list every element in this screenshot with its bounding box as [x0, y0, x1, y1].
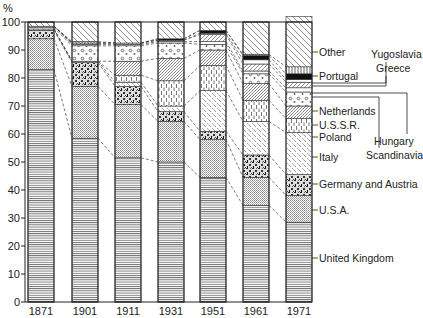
bar-segment [286, 133, 312, 175]
legend-label-usa: U.S.A. [319, 204, 349, 216]
bar-segment [158, 43, 184, 58]
bar-segment [200, 44, 226, 50]
connector-line [184, 30, 200, 38]
y-tick-label: 80 [8, 72, 20, 84]
y-tick-label: 60 [8, 128, 20, 140]
x-tick-label: 1911 [116, 305, 140, 317]
y-axis-unit: % [3, 2, 13, 14]
connector-line [141, 58, 158, 61]
connector-line [98, 61, 115, 82]
connector-line [54, 28, 72, 46]
y-tick-label: 70 [8, 100, 20, 112]
legend-label-ussr: U.S.S.R. [319, 119, 360, 131]
plot-area [28, 16, 312, 302]
bar-segment [158, 121, 184, 162]
bar-segment [243, 22, 269, 54]
legend-label-other: Other [319, 46, 346, 58]
bar-segment [158, 162, 184, 302]
connector-line [141, 158, 158, 162]
connector-line [141, 39, 158, 43]
bar-segment [286, 222, 312, 302]
x-tick-label: 1961 [244, 305, 268, 317]
bar-segment [243, 205, 269, 302]
bar-segment [72, 46, 98, 61]
legend-label-uk: United Kingdom [319, 252, 394, 264]
connector-line [226, 140, 243, 178]
connector-line [54, 70, 72, 139]
y-tick-label: 0 [14, 296, 20, 308]
bar-segment [243, 74, 269, 84]
bar-segment [158, 22, 184, 39]
legend-label-poland: Poland [319, 131, 352, 143]
connector-line [141, 75, 158, 81]
bar-segment [243, 71, 269, 74]
bar-segment [115, 61, 141, 75]
bar-segment [72, 22, 98, 42]
legend-label-hungary: Hungary [374, 135, 414, 147]
bar-segment [243, 155, 269, 177]
bar-segment [243, 84, 269, 101]
connector-line [269, 100, 286, 118]
bar-segment [158, 58, 184, 80]
bar-segment [200, 22, 226, 30]
x-tick-label: 1951 [201, 305, 225, 317]
connector-line [226, 50, 243, 84]
connector-line [141, 82, 158, 106]
bar-segment [286, 67, 312, 74]
legend-label-scandinavia: Scandinavia [366, 149, 423, 161]
x-tick-label: 1931 [159, 305, 183, 317]
connector-line [226, 91, 243, 122]
legend-label-italy: Italy [319, 151, 339, 163]
bar-segment [72, 86, 98, 138]
bar-segment [286, 79, 312, 82]
bar-segment [115, 75, 141, 82]
bar-segment [158, 81, 184, 106]
bar-segment [200, 65, 226, 90]
bar-segment [200, 30, 226, 33]
y-tick-label: 50 [8, 156, 20, 168]
bar-segment [200, 140, 226, 178]
connector-line [269, 205, 286, 222]
connector-line [226, 177, 243, 205]
y-tick-label: 10 [8, 268, 20, 280]
bar-segment [200, 131, 226, 139]
connector-line [98, 86, 115, 104]
bar-segment [286, 82, 312, 88]
connector-line [184, 91, 200, 106]
bar-segment [200, 35, 226, 42]
legend: Other Portugal Yugoslavia Greece Netherl… [312, 46, 423, 264]
bar-segment [28, 70, 54, 302]
connector-line [141, 86, 158, 111]
connector-line [269, 84, 286, 106]
bar-segment [286, 119, 312, 133]
x-axis: 1871190119111931195119611971 [25, 302, 312, 317]
legend-label-germany: Germany and Austria [319, 178, 418, 190]
connector-line [184, 162, 200, 177]
bar-segment [286, 196, 312, 223]
connector-line [184, 112, 200, 132]
bar-segment [28, 22, 54, 26]
connector-line [141, 43, 158, 46]
x-tick-label: 1901 [73, 305, 97, 317]
legend-label-greece: Greece [376, 62, 411, 74]
y-tick-label: 40 [8, 184, 20, 196]
x-tick-label: 1871 [29, 305, 53, 317]
bar-segment [72, 63, 98, 87]
bar-segment [28, 39, 54, 70]
bar-segment [28, 30, 54, 38]
bar-segment [115, 105, 141, 158]
bar-segment [243, 56, 269, 60]
bar-segment [115, 46, 141, 61]
y-tick-label: 90 [8, 44, 20, 56]
bar-segment [115, 22, 141, 43]
connector-line [184, 65, 200, 80]
bar-segment [243, 121, 269, 155]
connector-line [98, 138, 115, 158]
bar-segment [72, 138, 98, 302]
connector-line [98, 61, 115, 75]
bar-segment [286, 175, 312, 196]
connector-line [269, 177, 286, 195]
connector-line [226, 30, 243, 54]
bar-segment [115, 158, 141, 302]
bar-segment [200, 177, 226, 302]
